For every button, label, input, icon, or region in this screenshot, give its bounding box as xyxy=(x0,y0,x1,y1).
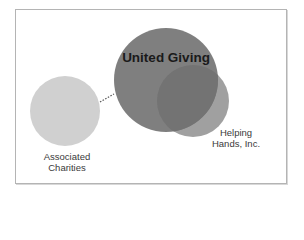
associated-charities-label-line2: Charities xyxy=(37,162,97,173)
helping-hands-label-line1: Helping xyxy=(210,127,262,138)
associated-charities-circle xyxy=(30,76,100,146)
associated-charities-label-line1: Associated xyxy=(37,151,97,162)
helping-hands-label: Helping Hands, Inc. xyxy=(210,127,262,149)
united-giving-label: United Giving xyxy=(116,50,216,65)
helping-hands-label-line2: Hands, Inc. xyxy=(210,138,262,149)
dotted-connector xyxy=(100,94,114,102)
associated-charities-label: Associated Charities xyxy=(37,151,97,173)
